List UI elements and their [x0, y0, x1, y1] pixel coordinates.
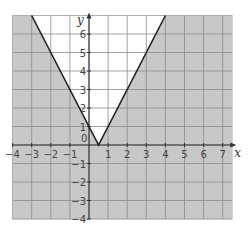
y-tick-label: 4	[80, 66, 86, 77]
y-axis-label: y	[76, 13, 84, 27]
y-tick-label: 3	[80, 85, 86, 96]
y-tick-label: 1	[80, 122, 86, 133]
x-tick-label: 2	[124, 149, 130, 160]
x-tick-label: 6	[200, 149, 206, 160]
x-tick-label: 4	[162, 149, 168, 160]
y-tick-label: −4	[71, 214, 86, 225]
y-tick-label: 5	[80, 48, 86, 59]
x-axis-label: x	[234, 146, 241, 160]
x-tick-label: −3	[24, 149, 39, 160]
graph: −4−3−2−11234567−4−3−2−1123456 x y 0	[0, 0, 250, 226]
x-tick-label: 1	[105, 149, 111, 160]
y-tick-label: 6	[80, 29, 86, 40]
x-tick-label: 7	[220, 149, 226, 160]
shaded-region	[13, 16, 233, 220]
x-tick-label: −2	[43, 149, 58, 160]
x-tick-label: 3	[143, 149, 149, 160]
y-tick-label: −2	[71, 177, 86, 188]
y-tick-label: −3	[71, 196, 86, 207]
x-tick-label: −4	[5, 149, 20, 160]
origin-label: 0	[81, 133, 87, 144]
x-tick-label: 5	[181, 149, 187, 160]
y-tick-label: 2	[80, 103, 86, 114]
y-tick-label: −1	[71, 159, 86, 170]
